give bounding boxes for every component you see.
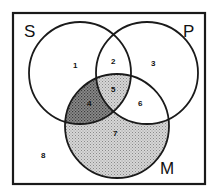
region-label-1: 1 <box>73 61 78 70</box>
region-label-7: 7 <box>113 129 118 138</box>
region-label-4: 4 <box>87 99 92 108</box>
region-label-2: 2 <box>111 57 116 66</box>
set-label-p: P <box>183 22 194 41</box>
venn-diagram: S P M 1 2 3 4 5 6 7 8 <box>0 0 214 195</box>
set-label-s: S <box>24 22 35 41</box>
region-label-6: 6 <box>138 99 143 108</box>
set-label-m: M <box>160 159 174 178</box>
region-label-5: 5 <box>111 85 116 94</box>
region-label-3: 3 <box>151 59 156 68</box>
region-label-8: 8 <box>41 151 46 160</box>
